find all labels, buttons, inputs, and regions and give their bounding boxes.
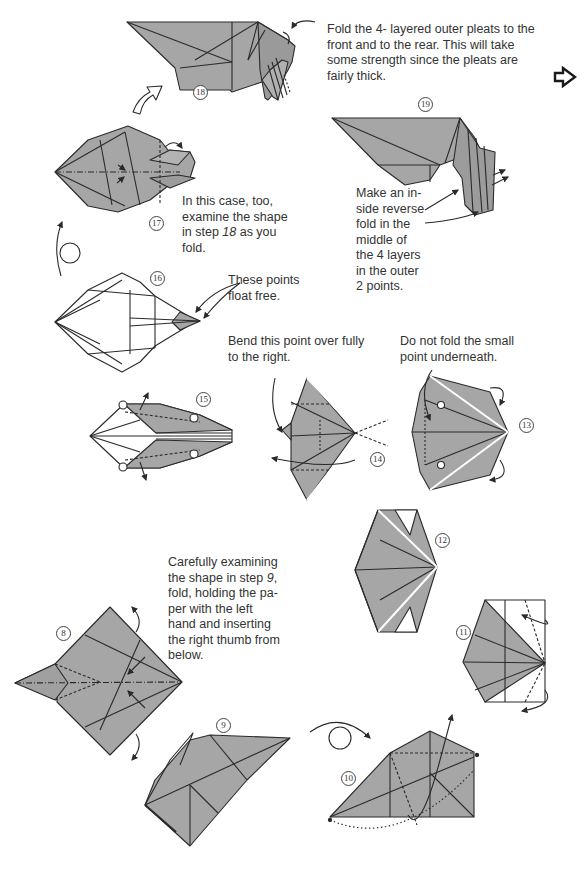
note-step-13: Do not fold the small point underneath. bbox=[400, 334, 560, 365]
note-step-8-text-a: Carefully examining the shape in step bbox=[168, 555, 278, 585]
step-number-14: 14 bbox=[370, 452, 385, 467]
step-16-diagram bbox=[55, 273, 240, 372]
note-step-8-ref: 9 bbox=[267, 571, 274, 585]
step-14-diagram bbox=[272, 378, 388, 500]
step-8-diagram bbox=[15, 607, 182, 760]
note-step-16: These points float free. bbox=[228, 273, 328, 304]
step-number-13: 13 bbox=[519, 418, 534, 433]
turn-over-symbol bbox=[57, 222, 80, 276]
step-number-10: 10 bbox=[341, 771, 356, 786]
curved-hollow-arrow bbox=[133, 86, 162, 114]
step-number-16: 16 bbox=[150, 271, 165, 286]
step-11-diagram bbox=[463, 600, 548, 711]
step-number-11: 11 bbox=[456, 625, 471, 640]
note-step-19: Make an in- side reverse fold in the mid… bbox=[356, 186, 466, 295]
step-number-15: 15 bbox=[196, 392, 211, 407]
origami-diagrams bbox=[0, 0, 587, 876]
step-number-17: 17 bbox=[149, 216, 164, 231]
note-step-8: Carefully examining the shape in step 9,… bbox=[168, 555, 318, 664]
step-17-diagram bbox=[55, 126, 195, 212]
step-number-19: 19 bbox=[418, 97, 433, 112]
note-step-14: Bend this point over fully to the right. bbox=[228, 334, 398, 365]
note-step-18: Fold the 4- layered outer pleats to the … bbox=[327, 22, 587, 84]
turn-over-symbol-9-10 bbox=[310, 722, 370, 749]
step-number-18: 18 bbox=[193, 85, 208, 100]
step-9-diagram bbox=[145, 733, 290, 846]
hollow-right-arrow-icon bbox=[553, 66, 577, 88]
step-number-8: 8 bbox=[56, 626, 71, 641]
step-15-diagram bbox=[90, 393, 232, 480]
step-number-12: 12 bbox=[435, 533, 450, 548]
note-step-17: In this case, too, examine the shape in … bbox=[182, 194, 312, 256]
step-13-diagram bbox=[412, 370, 508, 490]
step-12-diagram bbox=[355, 510, 437, 632]
step-number-9: 9 bbox=[216, 718, 231, 733]
note-step-17-ref: 18 bbox=[222, 225, 236, 239]
next-page-arrow-icon[interactable] bbox=[553, 66, 577, 88]
